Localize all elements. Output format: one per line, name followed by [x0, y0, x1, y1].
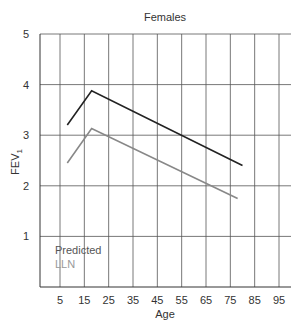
x-tick-label: 35 [127, 294, 139, 306]
x-tick-label: 95 [273, 294, 285, 306]
x-tick-label: 85 [249, 294, 261, 306]
legend-predicted: Predicted [55, 244, 101, 256]
x-axis-label: Age [155, 308, 175, 320]
legend-lln: LLN [55, 258, 75, 270]
x-tick-label: 45 [151, 294, 163, 306]
chart-title: Females [144, 11, 187, 23]
y-tick-label: 4 [23, 79, 29, 91]
y-tick-label: 5 [23, 28, 29, 40]
series-line-predicted [67, 91, 242, 166]
y-tick-label: 1 [23, 230, 29, 242]
x-tick-label: 5 [57, 294, 63, 306]
series-line-lln [67, 129, 237, 199]
x-tick-label: 15 [78, 294, 90, 306]
y-tick-label: 2 [23, 180, 29, 192]
x-tick-label: 65 [200, 294, 212, 306]
x-tick-label: 75 [224, 294, 236, 306]
y-tick-label: 3 [23, 129, 29, 141]
x-tick-label: 55 [176, 294, 188, 306]
fev1-chart: 515253545556575859512345FemalesAgeFEV1Pr… [0, 0, 299, 324]
x-tick-label: 25 [103, 294, 115, 306]
y-axis-label: FEV1 [9, 149, 24, 175]
